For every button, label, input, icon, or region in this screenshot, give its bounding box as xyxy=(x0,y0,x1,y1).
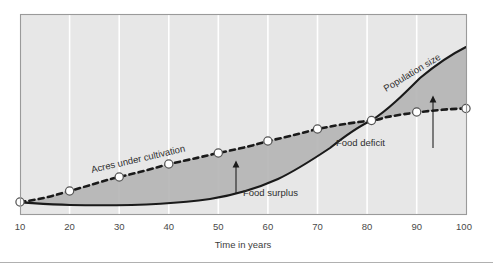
food-deficit-label: Food deficit xyxy=(336,137,385,148)
x-axis-tick-labels: 10 20 30 40 50 60 70 80 90 100 xyxy=(15,221,472,232)
population-food-chart: Food surplus Food deficit Population siz… xyxy=(0,0,493,270)
marker-40 xyxy=(165,160,173,168)
marker-20 xyxy=(66,187,74,195)
xtick-50: 50 xyxy=(213,221,224,232)
chart-figure: Food surplus Food deficit Population siz… xyxy=(0,0,493,270)
xtick-60: 60 xyxy=(263,221,274,232)
xtick-20: 20 xyxy=(64,221,75,232)
marker-60 xyxy=(264,137,272,145)
xtick-30: 30 xyxy=(114,221,125,232)
xtick-80: 80 xyxy=(362,221,373,232)
food-surplus-label: Food surplus xyxy=(243,187,298,198)
marker-70 xyxy=(313,125,321,133)
xtick-70: 70 xyxy=(312,221,323,232)
x-axis-title: Time in years xyxy=(215,239,272,250)
xtick-90: 90 xyxy=(411,221,422,232)
marker-90 xyxy=(413,108,421,116)
xtick-10: 10 xyxy=(15,221,26,232)
marker-30 xyxy=(115,173,123,181)
xtick-40: 40 xyxy=(164,221,175,232)
marker-80 xyxy=(367,116,375,124)
xtick-100: 100 xyxy=(456,221,472,232)
marker-50 xyxy=(214,149,222,157)
